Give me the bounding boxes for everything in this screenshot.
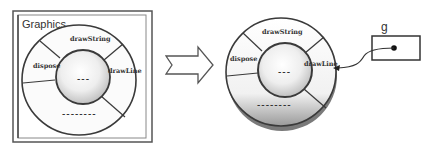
- hollow-right-arrow-icon: [166, 47, 213, 83]
- graphics-object-instance: drawString dispose drawLine --- --------: [226, 18, 338, 131]
- right-segment-dispose: dispose: [230, 55, 257, 63]
- left-segment-dispose: dispose: [33, 62, 60, 70]
- right-segment-drawline: drawLine: [304, 60, 338, 68]
- right-segment-drawstring: drawString: [262, 28, 303, 36]
- left-segment-bottom: --------: [62, 109, 97, 119]
- left-core-label: ---: [77, 74, 90, 84]
- right-segment-bottom: --------: [257, 100, 292, 110]
- left-segment-drawstring: drawString: [70, 35, 111, 43]
- variable-name-label: g: [381, 20, 388, 34]
- left-segment-drawline: drawLine: [108, 67, 142, 75]
- reference-variable: g: [333, 20, 420, 71]
- diagram-canvas: Graphics drawString dispose drawLine ---…: [0, 0, 434, 149]
- right-core-label: ---: [278, 67, 291, 77]
- graphics-class-panel: Graphics drawString dispose drawLine ---…: [13, 11, 152, 142]
